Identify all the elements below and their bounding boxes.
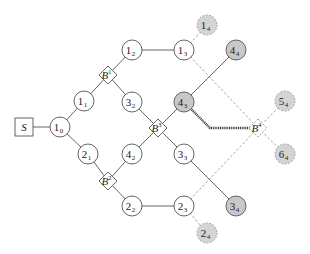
node-2_3: 23 — [174, 196, 194, 216]
edge-1_3-B4 — [184, 50, 258, 128]
source-node: S — [15, 118, 33, 136]
branch-point-B4: B4 — [249, 119, 267, 137]
node-1_0: 10 — [50, 117, 70, 137]
node-2_4: 24 — [197, 223, 217, 243]
edge-4_3-B4 — [184, 102, 258, 128]
node-1_1: 11 — [74, 91, 94, 111]
node-1_2: 12 — [122, 40, 142, 60]
node-3_2: 32 — [122, 92, 142, 112]
node-4_2: 42 — [122, 144, 142, 164]
node-4_4: 44 — [226, 40, 246, 60]
node-1_3: 13 — [174, 40, 194, 60]
node-5_4: 54 — [275, 91, 295, 111]
network-diagram: S1011211232422213433323144454643424B1B2B… — [0, 0, 310, 254]
nodes-layer: S1011211232422213433323144454643424B1B2B… — [15, 15, 295, 243]
source-label: S — [21, 121, 27, 133]
node-2_1: 21 — [78, 144, 98, 164]
node-4_3: 43 — [174, 92, 194, 112]
node-2_2: 22 — [122, 196, 142, 216]
node-3_4: 34 — [226, 196, 246, 216]
node-6_4: 64 — [275, 144, 295, 164]
node-3_3: 33 — [174, 144, 194, 164]
node-1_4: 14 — [197, 15, 217, 35]
edge-2_3-B4 — [184, 128, 258, 206]
